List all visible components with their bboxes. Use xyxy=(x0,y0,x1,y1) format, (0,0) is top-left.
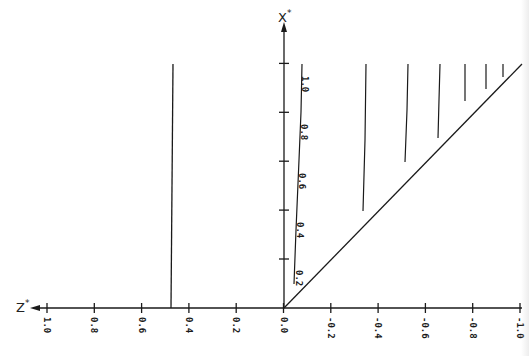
x-tick-label: 1.0 xyxy=(42,317,52,333)
scan-edge-shadow xyxy=(521,0,529,356)
x-axis: X* xyxy=(278,8,292,308)
z-axis-arrow-icon xyxy=(30,305,40,311)
x-tick-label: -0.8 xyxy=(468,317,478,339)
curve-annotation: 0.4 xyxy=(295,222,305,239)
z-axis: Z* 1.00.80.60.40.20.0-0.2-0.4-0.6-0.8-1.… xyxy=(16,298,525,339)
x-tick-label: 0.4 xyxy=(184,317,194,334)
curve-3 xyxy=(438,64,440,138)
x-tick-label: 0.8 xyxy=(89,317,99,333)
x-tick-label: -0.2 xyxy=(326,317,336,339)
curve-annotation: 1.0 xyxy=(300,76,310,92)
z-axis-label: Z* xyxy=(16,298,30,315)
curve-2 xyxy=(405,64,408,162)
curve-1 xyxy=(363,64,366,211)
curve-annotation: 0.6 xyxy=(297,173,307,189)
x-tick-label: -0.6 xyxy=(420,317,430,339)
x-tick-label: -0.4 xyxy=(373,317,383,339)
short-curves xyxy=(363,64,503,211)
x-tick-label: 0.6 xyxy=(137,317,147,333)
x-axis-label: X* xyxy=(278,8,292,25)
curve-labels: 0.20.40.60.81.0 xyxy=(294,76,310,286)
x-tick-label: 0.2 xyxy=(231,317,241,333)
curve-annotation: 0.8 xyxy=(299,124,309,140)
chart: Z* 1.00.80.60.40.20.0-0.2-0.4-0.6-0.8-1.… xyxy=(0,0,529,356)
curve-annotation: 0.2 xyxy=(294,270,304,286)
diagonal-boundary-line xyxy=(284,64,522,308)
x-tick-label: 0.0 xyxy=(279,317,289,333)
left-vertical-line xyxy=(171,64,173,308)
